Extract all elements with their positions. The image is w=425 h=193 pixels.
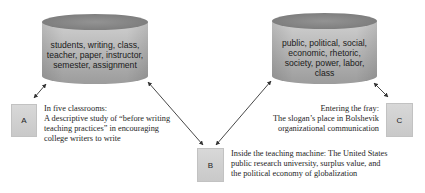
keyword-line: teacher, paper, instructor, (44, 50, 146, 60)
node-c-description: Entering the fray: The slogan’s place in… (273, 104, 379, 134)
keyword-line: economic, rhetoric, (274, 48, 375, 58)
arrow-right-cylinder-to-c (374, 83, 388, 97)
description-line: The slogan’s place in Bolshevik (273, 114, 379, 124)
description-line: college writers to write (44, 134, 170, 144)
node-a-description: In five classrooms: A descriptive study … (44, 104, 170, 144)
description-line: organizational communication (273, 124, 379, 134)
keyword-line: students, writing, class, (44, 40, 146, 50)
node-c-box: C (386, 103, 413, 137)
right-cylinder-keywords: public, political, social, economic, rhe… (274, 38, 375, 78)
arrow-left-cylinder-to-a (34, 84, 46, 98)
node-b-label: B (208, 161, 213, 170)
right-cylinder-top (272, 13, 377, 29)
node-b-box: B (197, 148, 224, 182)
node-b-description: Inside the teaching machine: The United … (231, 149, 388, 179)
description-line: public research university, surplus valu… (231, 159, 388, 169)
keyword-line: society, power, labor, (274, 58, 375, 68)
description-line: In five classrooms: (44, 104, 170, 114)
left-cylinder-top (42, 14, 148, 30)
description-line: Entering the fray: (273, 104, 379, 114)
description-line: teaching practices” in encouraging (44, 124, 170, 134)
left-cylinder-keywords: students, writing, class, teacher, paper… (44, 40, 146, 70)
keyword-line: class (274, 68, 375, 78)
node-a-box: A (11, 104, 37, 137)
node-c-label: C (397, 116, 403, 125)
description-line: the political economy of globalization (231, 169, 388, 179)
description-line: A descriptive study of “before writing (44, 114, 170, 124)
keyword-line: semester, assignment (44, 60, 146, 70)
arrow-right-cylinder-to-b (216, 81, 271, 145)
node-a-label: A (21, 116, 26, 125)
description-line: Inside the teaching machine: The United … (231, 149, 388, 159)
keyword-line: public, political, social, (274, 38, 375, 48)
